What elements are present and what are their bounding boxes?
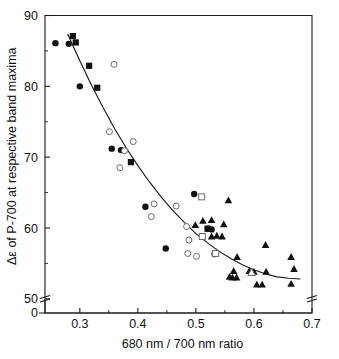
data-points: [52, 33, 298, 288]
marker-filled-triangle: [262, 241, 270, 248]
marker-filled-square: [94, 85, 100, 91]
x-tick-label: 0.5: [187, 317, 204, 331]
plot-frame: [39, 16, 317, 314]
y-axis-title: Δε of P-700 at respective band maxima: [5, 47, 19, 265]
series-filled-triangle: [192, 196, 298, 287]
scatter-plot: 50607080900.30.40.50.60.70680 nm / 700 n…: [0, 0, 339, 359]
y-tick-label: 90: [24, 9, 38, 23]
series-open-circle: [106, 61, 217, 259]
marker-filled-square: [86, 63, 92, 69]
axis-ticks: [45, 16, 312, 314]
marker-filled-circle: [77, 83, 83, 89]
y-origin-label: 0: [31, 306, 38, 320]
marker-open-circle: [186, 237, 192, 243]
marker-open-circle: [173, 203, 179, 209]
y-tick-label: 50: [24, 292, 38, 306]
marker-filled-square: [204, 226, 210, 232]
x-tick-label: 0.7: [303, 317, 320, 331]
marker-filled-circle: [163, 245, 169, 251]
marker-open-square: [199, 194, 205, 200]
marker-filled-triangle: [287, 253, 295, 260]
marker-open-circle: [111, 61, 117, 67]
series-open-square: [199, 194, 219, 257]
series-filled-square: [70, 33, 211, 232]
marker-filled-square: [128, 159, 134, 165]
series-filled-circle: [52, 40, 215, 252]
figure-container: 50607080900.30.40.50.60.70680 nm / 700 n…: [0, 0, 339, 359]
marker-filled-triangle: [290, 265, 298, 272]
y-tick-label: 70: [24, 151, 38, 165]
x-tick-label: 0.3: [71, 317, 88, 331]
marker-open-circle: [130, 139, 136, 145]
marker-open-circle: [151, 201, 157, 207]
y-tick-label: 80: [24, 80, 38, 94]
marker-filled-square: [73, 39, 79, 45]
marker-filled-triangle: [233, 253, 241, 260]
marker-filled-circle: [142, 204, 148, 210]
marker-open-circle: [185, 251, 191, 257]
axis-tick-labels: 50607080900.30.40.50.60.70680 nm / 700 n…: [5, 9, 321, 351]
marker-filled-triangle: [258, 281, 266, 288]
marker-open-circle: [148, 214, 154, 220]
marker-filled-triangle: [220, 220, 228, 227]
marker-filled-circle: [52, 40, 58, 46]
marker-filled-triangle: [262, 268, 270, 275]
marker-open-circle: [106, 129, 112, 135]
marker-filled-triangle: [192, 221, 200, 228]
marker-filled-circle: [109, 145, 115, 151]
plot-box: [45, 16, 312, 314]
marker-open-circle: [117, 165, 123, 171]
marker-open-circle: [193, 253, 199, 259]
y-tick-label: 60: [24, 222, 38, 236]
marker-filled-square: [70, 33, 76, 39]
marker-filled-triangle: [287, 280, 295, 287]
marker-open-square: [213, 251, 219, 257]
marker-open-circle: [184, 224, 190, 230]
marker-filled-circle: [191, 191, 197, 197]
marker-open-circle: [122, 148, 128, 154]
marker-filled-triangle: [218, 233, 226, 240]
marker-filled-triangle: [199, 217, 207, 224]
marker-filled-circle: [66, 41, 72, 47]
x-tick-label: 0.4: [129, 317, 146, 331]
marker-open-square: [199, 234, 205, 240]
marker-filled-triangle: [230, 267, 238, 274]
marker-filled-triangle: [208, 216, 216, 223]
x-axis-title: 680 nm / 700 nm ratio: [122, 337, 244, 351]
marker-filled-triangle: [225, 196, 233, 203]
x-tick-label: 0.6: [245, 317, 262, 331]
